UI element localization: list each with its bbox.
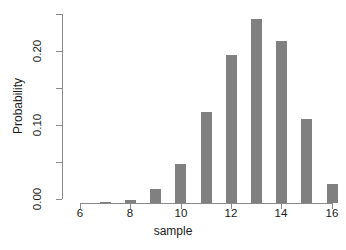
x-tick-label-10: 10 xyxy=(166,206,196,220)
y-tick-label-0.00: 0.00 xyxy=(22,193,52,205)
y-tick-0.25 xyxy=(56,14,62,15)
y-tick-0.15 xyxy=(56,88,62,89)
y-tick-0.05 xyxy=(56,162,62,163)
x-tick-label-16: 16 xyxy=(317,206,346,220)
y-axis-title: Probability xyxy=(11,61,25,151)
x-axis-title: sample xyxy=(0,224,346,238)
y-tick-0.10 xyxy=(56,125,62,126)
x-tick-label-12: 12 xyxy=(216,206,246,220)
x-axis-line xyxy=(80,203,332,204)
bar-10 xyxy=(175,164,186,203)
bar-12 xyxy=(226,55,237,203)
probability-bar-chart: 0.20 0.10 0.00 Probability 6 8 10 12 14 … xyxy=(0,0,346,250)
y-tick-label-0.10: 0.10 xyxy=(22,119,52,131)
y-tick-0.20 xyxy=(56,51,62,52)
bar-13 xyxy=(251,19,262,203)
x-tick-label-6: 6 xyxy=(65,206,95,220)
x-tick-label-8: 8 xyxy=(115,206,145,220)
y-axis-line xyxy=(62,14,63,199)
bar-16 xyxy=(327,184,338,203)
bar-8 xyxy=(125,200,136,203)
x-tick-label-14: 14 xyxy=(266,206,296,220)
y-tick-label-0.20: 0.20 xyxy=(22,45,52,57)
bar-9 xyxy=(150,189,161,203)
bar-7 xyxy=(100,202,111,203)
bar-14 xyxy=(276,41,287,203)
y-tick-0.00 xyxy=(56,199,62,200)
bar-11 xyxy=(201,112,212,203)
bar-15 xyxy=(301,119,312,203)
